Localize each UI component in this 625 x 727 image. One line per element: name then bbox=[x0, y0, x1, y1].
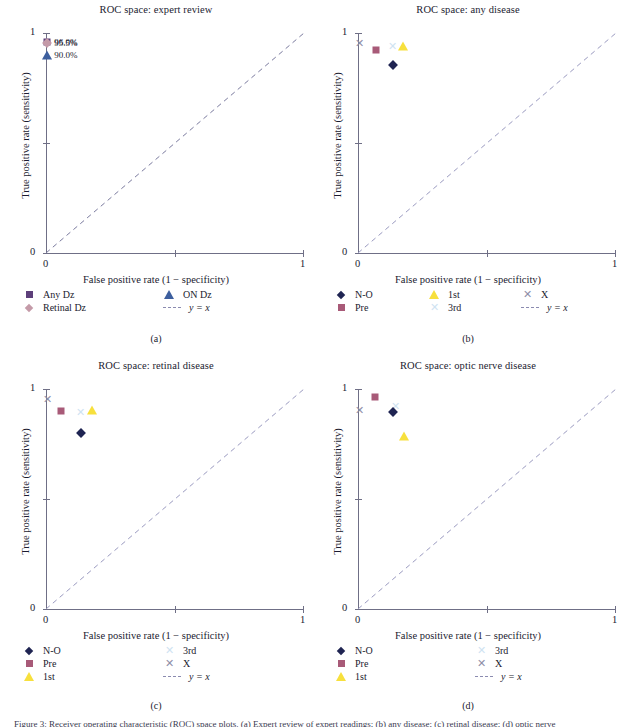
legend-item-label: 3rd bbox=[495, 645, 508, 656]
panel-c-legend: N-O✕3rdPre✕X1sty = x bbox=[22, 644, 302, 683]
legend-item-label: y = x bbox=[189, 671, 210, 682]
panel-a-legend: Any DzON DzRetinal Dzy = x bbox=[22, 288, 302, 314]
legend-item-label: 1st bbox=[448, 289, 460, 300]
legend-item-label: X bbox=[495, 658, 502, 669]
data-point-1st bbox=[399, 432, 409, 441]
legend-row: Retinal Dzy = x bbox=[22, 301, 302, 314]
legend-item-3rd[interactable]: ✕3rd bbox=[474, 645, 614, 656]
y-label-1: 1 bbox=[30, 382, 35, 393]
data-point-pre bbox=[371, 393, 378, 400]
y-label-0: 0 bbox=[30, 602, 35, 613]
legend-row: N-O✕3rd bbox=[334, 644, 614, 657]
data-point-n-o bbox=[388, 60, 398, 70]
x-marker-icon: ✕ bbox=[162, 645, 176, 656]
legend-item-y-x[interactable]: y = x bbox=[520, 302, 613, 313]
triangle-marker-icon bbox=[22, 671, 36, 682]
legend-item-label: y = x bbox=[547, 302, 568, 313]
panel-c-retinal-disease: ROC space: retinal disease 1 0 0 1 False… bbox=[0, 356, 312, 708]
x-label-1: 1 bbox=[612, 258, 617, 269]
legend-row: 1sty = x bbox=[22, 670, 302, 683]
x-axis-title: False positive rate (1 − specificity) bbox=[0, 274, 312, 285]
square-marker-icon bbox=[334, 658, 348, 669]
dashed-line-icon bbox=[162, 671, 182, 682]
data-point-1st bbox=[87, 405, 97, 414]
x-label-0: 0 bbox=[355, 614, 360, 625]
triangle-marker-icon bbox=[334, 671, 348, 682]
y-label-0: 0 bbox=[342, 246, 347, 257]
dashed-line-icon bbox=[520, 302, 540, 313]
triangle-marker-icon bbox=[162, 289, 176, 300]
legend-item-any-dz[interactable]: Any Dz bbox=[22, 289, 162, 300]
legend-item-label: X bbox=[541, 289, 548, 300]
legend-item-label: Pre bbox=[43, 658, 56, 669]
legend-item-1st[interactable]: 1st bbox=[334, 671, 474, 682]
legend-item-3rd[interactable]: ✕3rd bbox=[427, 302, 520, 313]
legend-item-n-o[interactable]: N-O bbox=[22, 645, 162, 656]
x-label-0: 0 bbox=[43, 614, 48, 625]
legend-item-on-dz[interactable]: ON Dz bbox=[162, 289, 302, 300]
legend-item-pre[interactable]: Pre bbox=[334, 302, 427, 313]
legend-item-y-x[interactable]: y = x bbox=[162, 671, 302, 682]
legend-item-label: Any Dz bbox=[43, 289, 74, 300]
figure-caption: Figure 3: Receiver operating characteris… bbox=[14, 719, 614, 727]
y-label-1: 1 bbox=[342, 382, 347, 393]
x-label-0: 0 bbox=[43, 258, 48, 269]
legend-item-label: y = x bbox=[189, 302, 210, 313]
legend-item-label: ON Dz bbox=[183, 289, 212, 300]
panel-d-optic-nerve-disease: ROC space: optic nerve disease 1 0 0 1 F… bbox=[312, 356, 624, 708]
y-tick-0 bbox=[355, 609, 362, 610]
square-marker-icon bbox=[22, 658, 36, 669]
data-point-x: ✕ bbox=[355, 406, 364, 414]
y-tick-0 bbox=[43, 253, 50, 254]
subplot-label-d: (d) bbox=[312, 700, 624, 711]
x-marker-icon: ✕ bbox=[474, 645, 488, 656]
dashed-line-icon bbox=[474, 671, 494, 682]
diamond-marker-icon bbox=[22, 645, 36, 656]
data-point-label: 90.0% bbox=[54, 50, 77, 60]
subplot-label-c: (c) bbox=[0, 700, 312, 711]
legend-row: Pre✕X bbox=[22, 657, 302, 670]
legend-item-n-o[interactable]: N-O bbox=[334, 289, 427, 300]
data-point-x: ✕ bbox=[43, 395, 52, 403]
x-label-0: 0 bbox=[355, 258, 360, 269]
y-tick-0 bbox=[355, 253, 362, 254]
square-marker-icon bbox=[334, 302, 348, 313]
x-axis-title: False positive rate (1 − specificity) bbox=[0, 630, 312, 641]
legend-row: N-O1st✕X bbox=[334, 288, 614, 301]
data-point-x: ✕ bbox=[355, 39, 364, 47]
legend-item-3rd[interactable]: ✕3rd bbox=[162, 645, 302, 656]
data-point-on-dz bbox=[42, 51, 52, 60]
subplot-label-a: (a) bbox=[0, 333, 312, 344]
legend-item-label: 3rd bbox=[448, 302, 461, 313]
legend-item-retinal-dz[interactable]: Retinal Dz bbox=[22, 302, 162, 313]
legend-row: 1sty = x bbox=[334, 670, 614, 683]
y-axis-title: True positive rate (sensitivity) bbox=[332, 26, 343, 246]
legend-item-pre[interactable]: Pre bbox=[22, 658, 162, 669]
data-point-pre bbox=[58, 408, 65, 415]
y-axis-title: True positive rate (sensitivity) bbox=[332, 382, 343, 602]
panel-c-points: ✕✕ bbox=[46, 389, 304, 609]
legend-item-pre[interactable]: Pre bbox=[334, 658, 474, 669]
legend-item-1st[interactable]: 1st bbox=[427, 289, 520, 300]
x-marker-icon: ✕ bbox=[520, 289, 534, 300]
data-point-1st bbox=[398, 42, 408, 51]
legend-item-label: N-O bbox=[355, 645, 373, 656]
y-axis-title: True positive rate (sensitivity) bbox=[20, 26, 31, 246]
legend-item-y-x[interactable]: y = x bbox=[162, 302, 302, 313]
legend-item-label: 1st bbox=[355, 671, 367, 682]
x-axis-title: False positive rate (1 − specificity) bbox=[312, 274, 624, 285]
data-point-label: 95.5% bbox=[54, 38, 77, 48]
diamond-marker-icon bbox=[334, 289, 348, 300]
legend-item-x[interactable]: ✕X bbox=[474, 658, 614, 669]
panel-d-legend: N-O✕3rdPre✕X1sty = x bbox=[334, 644, 614, 683]
legend-item-label: Pre bbox=[355, 302, 368, 313]
legend-item-x[interactable]: ✕X bbox=[520, 289, 613, 300]
legend-item-x[interactable]: ✕X bbox=[162, 658, 302, 669]
legend-item-1st[interactable]: 1st bbox=[22, 671, 162, 682]
legend-item-y-x[interactable]: y = x bbox=[474, 671, 614, 682]
x-axis-title: False positive rate (1 − specificity) bbox=[312, 630, 624, 641]
legend-item-n-o[interactable]: N-O bbox=[334, 645, 474, 656]
panel-a-points: 96.0%95.5%90.0% bbox=[46, 33, 304, 253]
legend-item-label: X bbox=[183, 658, 190, 669]
